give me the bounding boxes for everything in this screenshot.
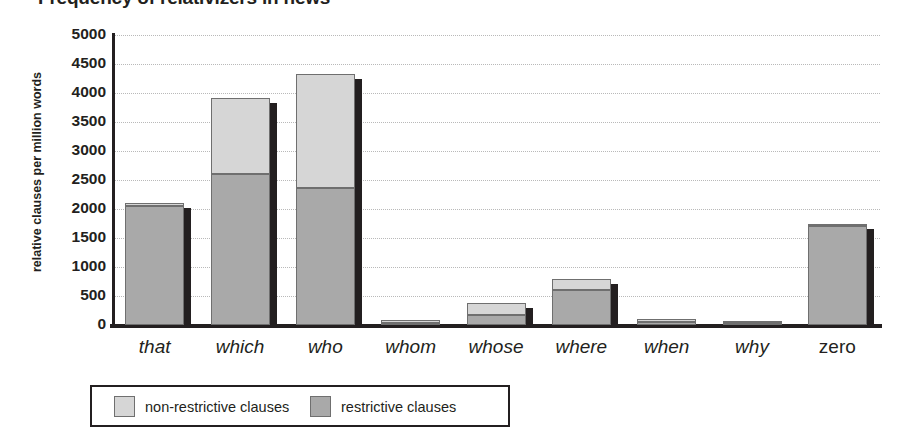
y-tick-label: 2000 (0, 200, 106, 216)
x-tick-label-zero: zero (795, 336, 880, 358)
x-tick-label-whom: whom (368, 336, 453, 358)
bar-shadow (611, 284, 618, 325)
x-tick-label-whose: whose (453, 336, 538, 358)
bar-shadow (355, 79, 362, 325)
bar-segment-restrictive (211, 174, 270, 325)
legend-item-restrictive: restrictive clauses (310, 396, 456, 417)
chart-root: Frequency of relativizers in news relati… (0, 0, 910, 437)
legend-item-non-restrictive: non-restrictive clauses (114, 396, 289, 417)
legend: non-restrictive clausesrestrictive claus… (90, 385, 510, 427)
bar-when (637, 319, 696, 325)
bar-shadow (526, 308, 533, 325)
bar-who (296, 74, 355, 325)
y-tick-label: 0 (0, 316, 106, 332)
bar-segment-non-restrictive (467, 303, 526, 315)
bar-segment-non-restrictive (211, 98, 270, 175)
y-axis-tick-labels: 5000450040003500300025002000150010005000 (0, 0, 106, 437)
bar-which (211, 98, 270, 325)
y-tick-label: 500 (0, 287, 106, 303)
legend-swatch (114, 396, 135, 417)
y-tick-label: 2500 (0, 171, 106, 187)
bar-shadow (270, 103, 277, 325)
bar-segment-non-restrictive (637, 319, 696, 322)
bar-shadow (696, 324, 703, 325)
x-axis-tick-labels: thatwhichwhowhomwhosewherewhenwhyzero (112, 336, 880, 364)
bar-segment-non-restrictive (723, 321, 782, 323)
bar-segment-non-restrictive (296, 74, 355, 188)
bar-segment-non-restrictive (808, 224, 867, 227)
bar-segment-non-restrictive (552, 279, 611, 291)
bar-segment-restrictive (808, 226, 867, 325)
x-tick-label-where: where (539, 336, 624, 358)
bar-why (723, 322, 782, 325)
x-tick-label-which: which (197, 336, 282, 358)
legend-swatch (310, 396, 331, 417)
y-tick-label: 3500 (0, 113, 106, 129)
y-tick-label: 3000 (0, 142, 106, 158)
bar-shadow (867, 229, 874, 326)
legend-label: restrictive clauses (341, 399, 456, 415)
bar-segment-restrictive (296, 188, 355, 325)
bar-segment-restrictive (467, 315, 526, 325)
bar-whom (381, 320, 440, 325)
y-tick-label: 4000 (0, 84, 106, 100)
bar-segment-restrictive (552, 290, 611, 325)
bar-zero (808, 224, 867, 326)
bar-series-container (112, 35, 880, 325)
y-tick-label: 5000 (0, 26, 106, 42)
bar-segment-restrictive (125, 206, 184, 325)
bar-where (552, 279, 611, 325)
bar-whose (467, 303, 526, 325)
y-tick-label: 4500 (0, 55, 106, 71)
x-tick-label-who: who (283, 336, 368, 358)
bar-segment-non-restrictive (125, 203, 184, 205)
bar-shadow (184, 208, 191, 325)
legend-label: non-restrictive clauses (145, 399, 289, 415)
bar-segment-restrictive (723, 323, 782, 325)
x-tick-label-when: when (624, 336, 709, 358)
bar-segment-restrictive (637, 322, 696, 325)
y-tick-label: 1500 (0, 229, 106, 245)
y-tick-label: 1000 (0, 258, 106, 274)
x-tick-label-why: why (709, 336, 794, 358)
bar-that (125, 203, 184, 325)
bar-segment-restrictive (381, 323, 440, 325)
x-tick-label-that: that (112, 336, 197, 358)
bar-segment-non-restrictive (381, 320, 440, 322)
